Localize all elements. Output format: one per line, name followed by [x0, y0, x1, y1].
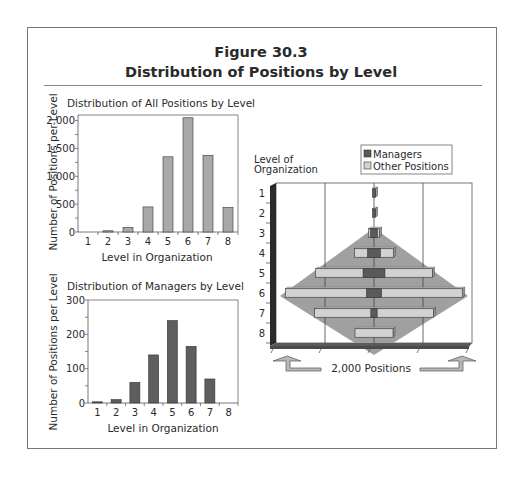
pyramid-level-label: 2: [259, 208, 265, 219]
chart-all-ytick-label: 500: [56, 199, 75, 210]
chart-managers-bar: [167, 321, 177, 403]
right-arrow-icon: [420, 356, 476, 371]
pyramid-manager-bar: [363, 269, 385, 278]
pyramid-manager-bar: [366, 289, 381, 298]
pyramid-level-label: 7: [259, 308, 265, 319]
chart-all-bar: [123, 228, 133, 232]
chart-managers-bar: [130, 382, 140, 403]
chart-managers-xtick-label: 8: [225, 407, 231, 418]
pyramid-level-label: 3: [259, 228, 265, 239]
chart-all-bar: [183, 118, 193, 232]
pyramid-level-label: 5: [259, 268, 265, 279]
chart-managers-ytick-label: 100: [66, 363, 85, 374]
chart-managers-ytick-label: 200: [66, 329, 85, 340]
chart-managers-xtick-label: 6: [188, 407, 194, 418]
chart-managers-xtick-label: 1: [94, 407, 100, 418]
pyramid-other-bar: [373, 209, 376, 218]
chart-all-xtick-label: 1: [85, 236, 91, 247]
chart-all-title: Distribution of All Positions by Level: [67, 97, 255, 109]
chart-all-xtick-label: 2: [105, 236, 111, 247]
legend-managers-label: Managers: [373, 149, 422, 160]
chart-all-ytick-label: 1,000: [46, 171, 75, 182]
chart-all-bar: [163, 157, 173, 232]
chart-all-ytick-label: 0: [69, 227, 75, 238]
chart-all-ytick-label: 1,500: [46, 143, 75, 154]
pyramid-other-bar: [373, 189, 376, 198]
chart-managers-xtick-label: 4: [150, 407, 156, 418]
chart-managers-ytick-label: 300: [66, 295, 85, 306]
chart-all-xtick-label: 3: [125, 236, 131, 247]
chart-managers-xtick-label: 3: [132, 407, 138, 418]
chart-all-bar: [103, 231, 113, 232]
chart-managers-xtick-label: 7: [207, 407, 213, 418]
chart-managers-bar: [92, 402, 102, 403]
chart-all-xlabel: Level in Organization: [101, 251, 212, 263]
chart-all-bar: [203, 155, 213, 232]
legend-other-swatch: [364, 162, 371, 169]
pyramid-level-label: 8: [259, 328, 265, 339]
left-arrow-icon: [273, 356, 321, 371]
chart-pyramid: Level of Organization 12345678 Managers …: [254, 145, 476, 374]
chart-all-xtick-label: 6: [185, 236, 191, 247]
chart-managers-xlabel: Level in Organization: [107, 422, 218, 434]
scale-label: 2,000 Positions: [331, 362, 411, 374]
pyramid-other-bar: [355, 329, 393, 338]
legend-other-label: Other Positions: [373, 161, 449, 172]
pyramid-level-label: 4: [259, 248, 265, 259]
chart-managers-xtick-label: 2: [113, 407, 119, 418]
pyramid-manager-bar: [368, 249, 381, 258]
chart-all-xtick-label: 5: [165, 236, 171, 247]
chart-managers-ytick-label: 0: [79, 398, 85, 409]
chart-all-bar: [223, 207, 233, 232]
scale-indicator: 2,000 Positions: [273, 356, 476, 374]
chart-managers-xtick-label: 5: [169, 407, 175, 418]
chart-managers-bar: [149, 355, 159, 403]
chart-all-xtick-label: 4: [145, 236, 151, 247]
chart-managers-title: Distribution of Managers by Level: [67, 280, 244, 292]
chart-managers-ylabel: Number of Positions per Level: [47, 273, 59, 430]
legend-managers-swatch: [364, 150, 371, 157]
chart-managers-bar: [186, 346, 196, 403]
pyramid-manager-bar: [371, 229, 378, 238]
pyramid-level-label: 6: [259, 288, 265, 299]
pyramid-manager-bar: [371, 309, 377, 318]
chart-all-ytick-label: 2,000: [46, 115, 75, 126]
chart-managers-bar: [111, 400, 121, 403]
pyramid-ylabel-line2: Organization: [254, 164, 318, 175]
chart-all-positions: Distribution of All Positions by Level N…: [46, 93, 255, 263]
chart-managers: Distribution of Managers by Level Number…: [47, 273, 244, 434]
figure-charts: Distribution of All Positions by Level N…: [0, 0, 522, 480]
pyramid-legend: Managers Other Positions: [361, 145, 452, 174]
chart-all-xtick-label: 8: [225, 236, 231, 247]
chart-all-bar: [143, 207, 153, 232]
pyramid-level-label: 1: [259, 188, 265, 199]
chart-all-xtick-label: 7: [205, 236, 211, 247]
chart-managers-bar: [205, 379, 215, 403]
